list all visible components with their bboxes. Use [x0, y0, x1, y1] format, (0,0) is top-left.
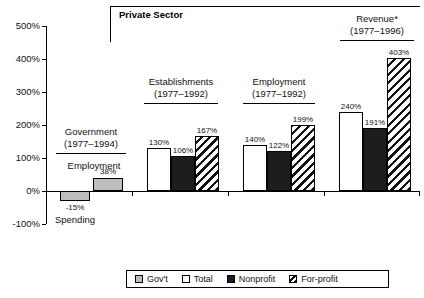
y-tick-300: 300% — [0, 87, 40, 97]
legend-item-forprofit: For-profit — [289, 274, 338, 284]
x-separator-tick-2 — [228, 192, 229, 196]
group-rule-revenue — [340, 40, 414, 41]
private-sector-bracket-left — [110, 6, 111, 42]
bar-est-total — [147, 148, 171, 191]
group-heading-revenue-period: (1977–1996) — [334, 25, 420, 37]
y-tick-mark-300 — [42, 92, 46, 93]
caption-gov-spending: Spending — [45, 214, 105, 225]
bar-value-gov-spending: -15% — [55, 203, 95, 212]
y-tick-400: 400% — [0, 54, 40, 64]
group-rule-employment — [243, 103, 315, 104]
y-tick-neg100: -100% — [0, 219, 40, 229]
legend-label-forprofit: For-profit — [301, 274, 338, 284]
private-sector-label: Private Sector — [119, 9, 183, 20]
x-separator-tick-1 — [132, 192, 133, 196]
legend-item-govt: Gov't — [135, 274, 168, 284]
bar-est-forprofit — [195, 136, 219, 191]
y-tick-mark-200 — [42, 125, 46, 126]
legend-swatch-total-icon — [182, 275, 190, 283]
y-tick-200: 200% — [0, 120, 40, 130]
bar-emp-nonprofit — [267, 151, 291, 191]
private-sector-bracket-top — [110, 6, 420, 7]
y-tick-mark-500 — [42, 26, 46, 27]
bar-value-rev-total: 240% — [337, 102, 365, 111]
y-axis-line — [46, 26, 47, 224]
chart-legend: Gov't Total Nonprofit For-profit — [126, 270, 389, 288]
bar-rev-forprofit — [387, 58, 411, 191]
bar-rev-total — [339, 112, 363, 191]
y-tick-mark-400 — [42, 59, 46, 60]
bar-value-est-forprofit: 167% — [193, 126, 221, 135]
x-separator-tick-3 — [324, 192, 325, 196]
group-rule-government — [56, 153, 126, 154]
bar-rev-nonprofit — [363, 128, 387, 191]
group-heading-establishments-period: (1977–1992) — [138, 88, 224, 100]
legend-item-nonprofit: Nonprofit — [227, 274, 276, 284]
bar-value-emp-forprofit: 199% — [289, 115, 317, 124]
bar-emp-total — [243, 145, 267, 191]
bar-value-rev-nonprofit: 191% — [361, 118, 389, 127]
bar-emp-forprofit — [291, 125, 315, 191]
legend-swatch-nonprofit-icon — [227, 275, 235, 283]
legend-swatch-forprofit-icon — [289, 275, 297, 283]
group-heading-employment-period: (1977–1992) — [236, 88, 322, 100]
bar-value-rev-forprofit: 403% — [385, 48, 413, 57]
bar-est-nonprofit — [171, 156, 195, 191]
bar-gov-employment — [93, 178, 123, 191]
y-tick-0: 0% — [0, 186, 40, 196]
y-tick-100: 100% — [0, 153, 40, 163]
chart-figure: Private Sector 500% 400% 300% 200% 100% … — [0, 0, 424, 298]
group-heading-government-period: (1977–1994) — [48, 138, 134, 150]
bar-value-gov-employment: 38% — [93, 167, 123, 176]
group-heading-employment-title: Employment — [236, 76, 322, 88]
legend-label-nonprofit: Nonprofit — [239, 274, 276, 284]
bar-value-est-nonprofit: 106% — [169, 146, 197, 155]
legend-item-total: Total — [182, 274, 213, 284]
group-heading-revenue-title: Revenue* — [334, 13, 420, 25]
y-tick-mark-100 — [42, 158, 46, 159]
legend-label-govt: Gov't — [147, 274, 168, 284]
group-heading-government-title: Government — [48, 126, 134, 138]
bar-value-emp-nonprofit: 122% — [265, 141, 293, 150]
group-heading-establishments-title: Establishments — [138, 76, 224, 88]
y-tick-500: 500% — [0, 21, 40, 31]
x-separator-tick-4 — [419, 192, 420, 196]
x-axis-baseline — [46, 191, 420, 192]
legend-label-total: Total — [194, 274, 213, 284]
group-rule-establishments — [144, 103, 218, 104]
bar-gov-spending — [60, 191, 90, 201]
legend-swatch-govt-icon — [135, 275, 143, 283]
